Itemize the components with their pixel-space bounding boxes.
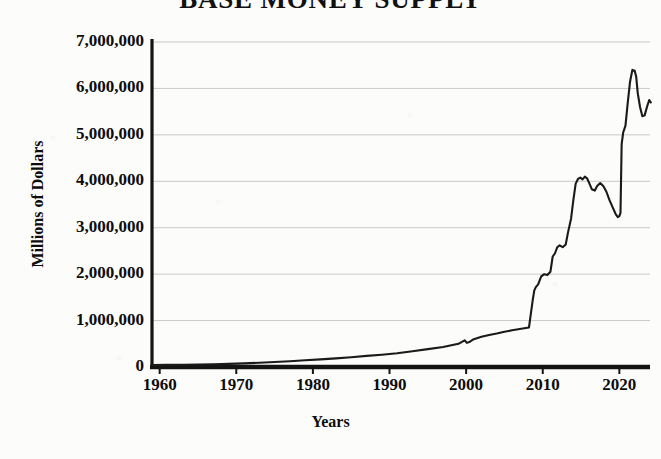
- x-tick-label: 2000: [426, 375, 506, 395]
- x-tick-label: 1970: [196, 375, 276, 395]
- x-tick-label: 2010: [503, 375, 583, 395]
- chart-figure: BASE MONEY SUPPLY Millions of Dollars 7,…: [0, 0, 661, 459]
- x-tick-label: 1960: [120, 375, 200, 395]
- x-tick-label: 1990: [350, 375, 430, 395]
- x-tick-label: 1980: [273, 375, 353, 395]
- x-axis-title: Years: [0, 413, 661, 431]
- x-tick-label: 2020: [579, 375, 659, 395]
- gridlines: [152, 42, 650, 321]
